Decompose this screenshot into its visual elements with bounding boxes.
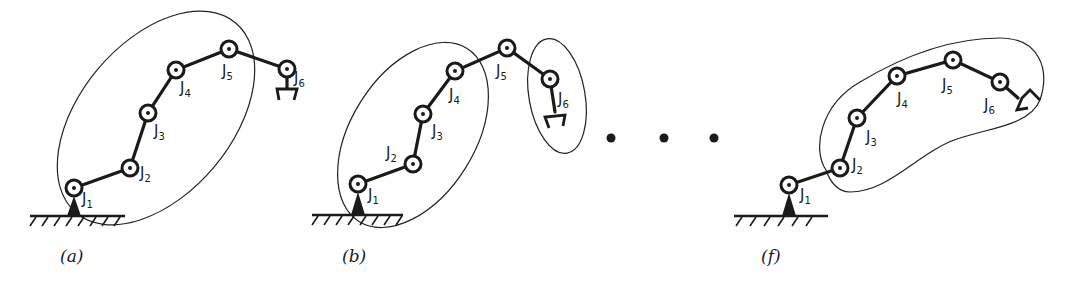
joint-label-j2: J2 xyxy=(139,164,151,184)
joints-f xyxy=(781,52,1008,193)
grouping-ellipse-j6 xyxy=(519,34,594,158)
panel-b: J1 J2 J3 J4 J5 J6 (b) xyxy=(306,16,594,266)
joint-label-j6: J6 xyxy=(557,90,569,110)
joint-label-j2: J2 xyxy=(385,144,397,164)
panel-caption-a: (a) xyxy=(60,246,83,266)
gripper-icon xyxy=(545,115,565,128)
panel-a: J1 J2 J3 J4 J5 J6 (a) xyxy=(18,0,305,266)
joint-label-j5: J5 xyxy=(221,62,233,82)
joint-label-j4: J4 xyxy=(896,90,908,110)
joint-label-j3: J3 xyxy=(865,128,877,148)
ellipsis-dots xyxy=(607,134,719,143)
joint-label-j6: J6 xyxy=(293,69,305,89)
joint-label-j6: J6 xyxy=(983,96,995,116)
joint-label-j4: J4 xyxy=(448,86,460,106)
grouping-ellipse-j1-j4 xyxy=(306,16,519,255)
base-support-icon xyxy=(351,192,365,215)
joint-label-j3: J3 xyxy=(153,122,165,142)
joint-label-j2: J2 xyxy=(851,156,863,176)
joint-label-j5: J5 xyxy=(495,62,507,82)
joint-label-j5: J5 xyxy=(941,76,953,96)
base-support-icon xyxy=(782,193,796,216)
panel-caption-f: (f) xyxy=(761,246,781,266)
panel-f: J1 J2 J3 J4 J5 J6 (f) xyxy=(734,38,1044,266)
joint-label-j1: J1 xyxy=(367,186,379,206)
joint-label-j3: J3 xyxy=(431,122,443,142)
ground-hatch xyxy=(736,217,812,226)
joint-label-j1: J1 xyxy=(799,186,811,206)
joints-a xyxy=(66,41,295,196)
gripper-icon xyxy=(277,89,297,100)
joint-label-j1: J1 xyxy=(81,190,93,210)
robot-arm-decomposition-diagram: J1 J2 J3 J4 J5 J6 (a) xyxy=(0,0,1072,284)
joint-label-j4: J4 xyxy=(179,79,191,99)
panel-caption-b: (b) xyxy=(342,246,366,266)
